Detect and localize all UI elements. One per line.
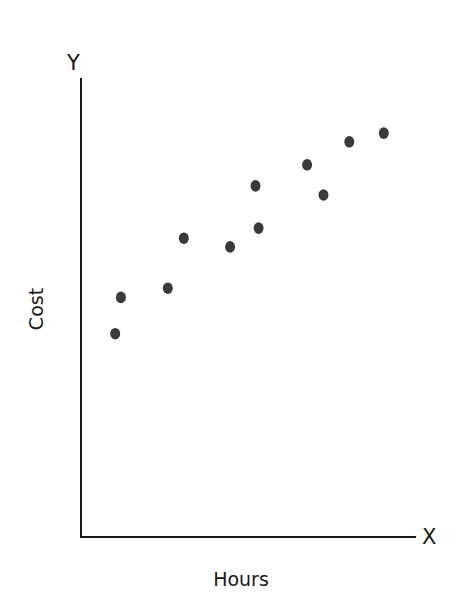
data-point [163,282,173,294]
data-point [254,222,264,234]
data-point [379,127,389,139]
y-axis-letter: Y [66,51,80,75]
x-axis-title: Hours [213,568,269,590]
data-point [344,136,354,148]
data-point [302,159,312,171]
data-point [116,292,126,304]
data-point [319,189,329,201]
x-axis-letter: X [422,525,436,549]
data-points [110,127,389,339]
y-axis-title: Cost [25,288,47,330]
scatter-chart: Y X Hours Cost [0,0,464,613]
data-point [110,328,120,340]
data-point [225,241,235,253]
data-point [251,180,261,192]
data-point [179,232,189,244]
